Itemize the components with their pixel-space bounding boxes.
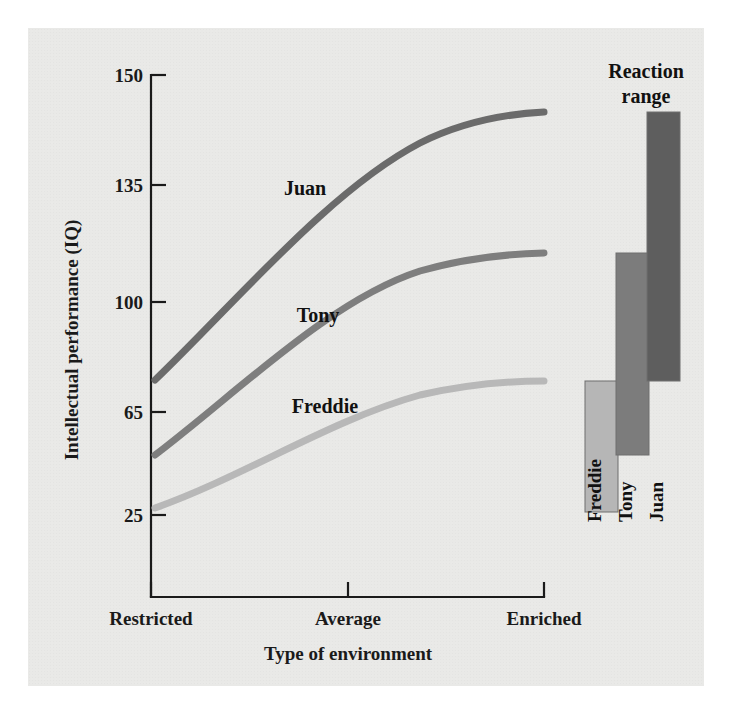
y-tick-label-100: 100 <box>115 292 144 313</box>
y-axis-title: Intellectual performance (IQ) <box>61 220 83 461</box>
y-tick-label-25: 25 <box>124 505 143 526</box>
curve-label-juan: Juan <box>284 177 326 199</box>
figure-root: 150 135 100 65 25 Intellectual performan… <box>0 0 730 710</box>
reaction-range-panel: Reaction range Freddie Tony Juan <box>584 60 684 522</box>
reaction-range-bar-label-juan: Juan <box>646 481 667 522</box>
curve-juan <box>155 112 544 380</box>
reaction-range-title-line1: Reaction <box>608 60 684 82</box>
reaction-range-bar-tony <box>616 253 649 455</box>
y-tick-label-150: 150 <box>115 65 144 86</box>
x-tick-label-enriched: Enriched <box>507 608 582 629</box>
y-tick-label-135: 135 <box>115 175 144 196</box>
x-tick-label-restricted: Restricted <box>109 608 193 629</box>
curve-group <box>155 112 544 508</box>
curve-label-freddie: Freddie <box>292 395 358 417</box>
x-tick-label-average: Average <box>315 608 381 629</box>
reaction-range-bar-juan <box>647 112 680 381</box>
reaction-range-bar-label-tony: Tony <box>615 481 636 522</box>
reaction-range-bar-label-freddie: Freddie <box>584 459 605 522</box>
reaction-range-title-line2: range <box>622 85 671 108</box>
x-axis-title: Type of environment <box>264 643 433 664</box>
curve-label-tony: Tony <box>297 304 340 327</box>
reaction-range-chart: 150 135 100 65 25 Intellectual performan… <box>0 0 730 710</box>
x-axis: Restricted Average Enriched Type of envi… <box>109 582 582 664</box>
y-tick-label-65: 65 <box>124 402 143 423</box>
y-axis: 150 135 100 65 25 Intellectual performan… <box>61 65 166 597</box>
curve-tony <box>155 253 544 455</box>
